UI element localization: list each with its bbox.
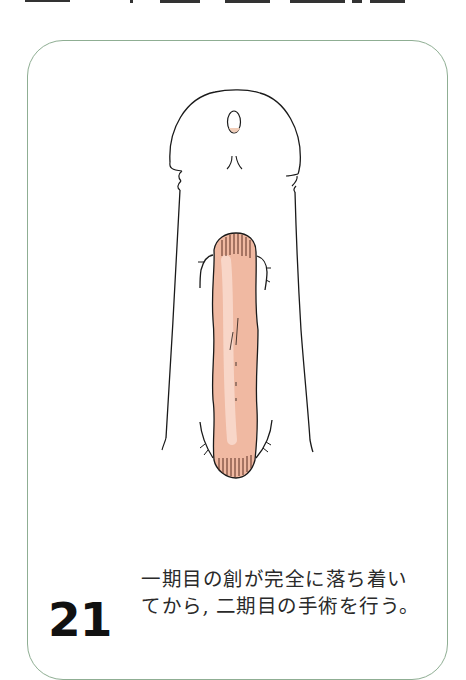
caption-line-2: てから, 二期目の手術を行う。 (141, 593, 451, 620)
figure-caption: 一期目の創が完全に落ち着い てから, 二期目の手術を行う。 (141, 566, 451, 620)
skin-edge-top-right (257, 256, 267, 290)
frenulum-mark (227, 156, 242, 169)
figure-number: 21 (48, 596, 111, 643)
shaft-right-outline (295, 192, 313, 452)
corona-right (286, 174, 298, 192)
shaft-left-outline (166, 190, 180, 438)
skin-edge-bottom-right (256, 420, 272, 458)
caption-line-1: 一期目の創が完全に落ち着い (141, 566, 451, 593)
skin-edge-top-left (200, 255, 213, 288)
corona-left (170, 162, 182, 190)
